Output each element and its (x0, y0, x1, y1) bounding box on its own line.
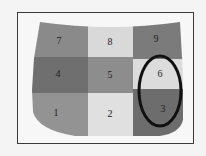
zone-label-2: 2 (108, 108, 113, 119)
car-hood-diagram: 7 8 9 4 5 6 1 2 3 (0, 0, 206, 156)
zone-label-3: 3 (161, 103, 166, 114)
zone-label-1: 1 (54, 107, 59, 118)
zone-label-6: 6 (158, 68, 163, 79)
zone-label-8: 8 (108, 36, 113, 47)
zone-label-4: 4 (56, 68, 61, 79)
zone-label-5: 5 (108, 69, 113, 80)
zone-9 (133, 15, 188, 59)
zone-label-7: 7 (57, 35, 62, 46)
zone-label-9: 9 (154, 33, 159, 44)
